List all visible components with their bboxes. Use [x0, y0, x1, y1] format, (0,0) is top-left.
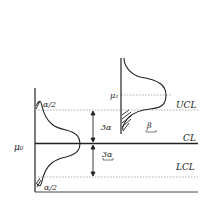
alpha-half-bottom-label: α/2	[44, 183, 57, 192]
alpha-half-top-label: α/2	[43, 100, 56, 109]
beta-bracket	[146, 130, 156, 132]
shifted-distribution-curve	[123, 58, 166, 130]
three-sigma-upper-label: 3α	[101, 123, 112, 132]
mu1-label: μ₁	[110, 91, 118, 100]
mu0-label: μ₀	[14, 142, 24, 152]
lcl-label: LCL	[175, 162, 195, 172]
alpha-top-hatch	[36, 101, 40, 109]
beta-hatch	[122, 110, 132, 131]
beta-label: β	[146, 121, 152, 130]
three-sigma-lower-arrow	[91, 145, 95, 176]
ucl-label: UCL	[176, 100, 196, 110]
cl-label: CL	[183, 133, 196, 143]
three-sigma-upper-arrow	[91, 111, 95, 142]
control-chart-diagram: μ₀ μ₁ UCL CL LCL α/2 α/2 3α 3α β	[0, 0, 211, 206]
three-sigma-lower-label: 3α	[102, 150, 113, 159]
